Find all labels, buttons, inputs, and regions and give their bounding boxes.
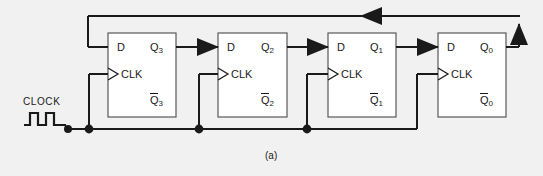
clock-label: CLOCK [23,96,60,107]
qbar-output-label-ff3: Q3 [150,94,163,108]
q-letter-ff3: Q [150,41,159,53]
qbar-subscript-ff2: 2 [270,99,274,108]
q-subscript-ff0: 0 [489,46,493,55]
qbar-letter-ff1: Q [370,94,379,106]
qbar-overline-ff3: Q [150,94,159,106]
d-label-ff0: D [447,41,455,53]
clk-label-ff0: CLK [451,68,472,80]
overbar-ff0 [480,93,488,94]
clk-label-ff1: CLK [341,68,362,80]
clk-label-ff2: CLK [231,68,252,80]
clock-waveform [24,113,66,125]
q-subscript-ff2: 2 [270,46,274,55]
overbar-ff2 [261,93,269,94]
junction-dot-ff2 [195,125,204,134]
q-output-label-ff0: Q0 [480,41,493,55]
clk-label-ff3: CLK [121,68,142,80]
overbar-ff3 [150,93,158,94]
junction-dot-ff1 [303,125,312,134]
qbar-overline-ff0: Q [480,94,489,106]
qbar-output-label-ff1: Q1 [370,94,383,108]
q-letter-ff2: Q [261,41,270,53]
qbar-subscript-ff3: 3 [159,99,163,108]
qbar-letter-ff2: Q [261,94,270,106]
qbar-overline-ff2: Q [261,94,270,106]
q-letter-ff0: Q [480,41,489,53]
qbar-output-label-ff0: Q0 [480,94,493,108]
qbar-letter-ff3: Q [150,94,159,106]
q-output-label-ff2: Q2 [261,41,274,55]
q-subscript-ff3: 3 [159,46,163,55]
d-label-ff2: D [227,41,235,53]
qbar-letter-ff0: Q [480,94,489,106]
figure-canvas: CLOCK D CLK Q3 Q3 D CLK Q2 Q2 D CLK Q1 Q… [0,0,543,176]
junction-dot-ff3 [85,125,94,134]
overbar-ff1 [370,93,378,94]
d-label-ff3: D [117,41,125,53]
qbar-subscript-ff1: 1 [379,99,383,108]
q-output-label-ff1: Q1 [370,41,383,55]
qbar-output-label-ff2: Q2 [261,94,274,108]
figure-caption: (a) [265,150,277,161]
d-label-ff1: D [337,41,345,53]
q-letter-ff1: Q [370,41,379,53]
qbar-subscript-ff0: 0 [489,99,493,108]
qbar-overline-ff1: Q [370,94,379,106]
junction-dot-clock-source [64,125,72,133]
q-subscript-ff1: 1 [379,46,383,55]
q-output-label-ff3: Q3 [150,41,163,55]
